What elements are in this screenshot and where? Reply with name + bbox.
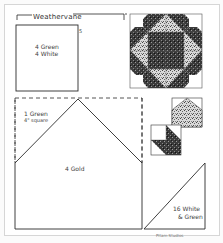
star-point-unit-preview (151, 125, 181, 155)
house-unit-preview (172, 98, 202, 127)
square-label-line1: 4 Green (35, 43, 59, 50)
pattern-page: Weathervane 5 4 Green 4 White 1 Green 4"… (0, 0, 223, 243)
house-label: 4 Gold (65, 165, 85, 172)
square-template (16, 25, 78, 91)
square-label-line2: 4 White (35, 50, 58, 57)
dashed-square-label-line2: 4" square (24, 117, 48, 124)
quilt-block-preview (130, 14, 202, 88)
credit-text: Pitam Studios (156, 233, 183, 238)
pattern-title: Weathervane (33, 13, 82, 21)
triangle-label-line2: & Green (178, 213, 203, 220)
square-marker: 5 (79, 28, 82, 35)
triangle-label-line1: 16 White (173, 205, 200, 212)
dashed-square-label-line1: 1 Green (24, 110, 48, 117)
